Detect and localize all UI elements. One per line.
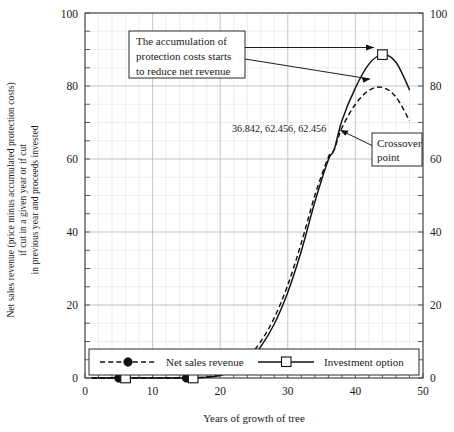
legend-marker-filled-circle bbox=[124, 358, 132, 366]
y-tick-20: 20 bbox=[67, 299, 79, 311]
x-axis-title: Years of growth of tree bbox=[203, 412, 305, 424]
legend-label-investment-option: Investment option bbox=[324, 356, 404, 368]
y-right-tick-40: 40 bbox=[430, 226, 442, 238]
y-tick-100: 100 bbox=[61, 8, 79, 20]
x-axis-tick-labels: 0 10 20 30 40 50 bbox=[82, 385, 429, 397]
chart-container: 0 10 20 30 40 50 0 20 40 60 80 100 0 20 … bbox=[0, 0, 454, 432]
y-axis-title: Net sales revenue (price minus accumulat… bbox=[5, 82, 40, 317]
x-tick-10: 10 bbox=[147, 385, 159, 397]
annotation-2-line-1: Crossover bbox=[377, 137, 422, 149]
annotation-1-line-3: to reduce net revenue bbox=[136, 65, 230, 77]
y-right-tick-80: 80 bbox=[430, 80, 442, 92]
y-axis-right-tick-labels: 0 20 40 60 80 100 bbox=[430, 8, 448, 385]
legend-marker-open-square bbox=[282, 357, 292, 367]
marker-peak bbox=[378, 50, 388, 60]
annotation-2-line-2: point bbox=[377, 151, 400, 163]
y-tick-60: 60 bbox=[67, 153, 79, 165]
y-tick-0: 0 bbox=[72, 372, 78, 384]
annotation-1-line-2: protection costs starts bbox=[136, 50, 231, 62]
data-point-label: 36.842, 62.456, 62.456 bbox=[232, 123, 326, 134]
annotation-1-line-1: The accumulation of bbox=[136, 35, 227, 47]
x-tick-30: 30 bbox=[282, 385, 294, 397]
chart-legend: Net sales revenue Investment option bbox=[89, 349, 419, 375]
y-right-tick-100: 100 bbox=[430, 8, 448, 20]
x-tick-20: 20 bbox=[214, 385, 226, 397]
y-tick-40: 40 bbox=[67, 226, 79, 238]
y-axis-tick-labels: 0 20 40 60 80 100 bbox=[61, 8, 79, 385]
y-right-tick-20: 20 bbox=[430, 299, 442, 311]
y-right-tick-60: 60 bbox=[430, 153, 442, 165]
x-tick-50: 50 bbox=[417, 385, 429, 397]
y-axis-title-line-2: if cut in a given year or if cut bbox=[17, 144, 28, 256]
x-tick-40: 40 bbox=[350, 385, 362, 397]
legend-label-net-sales-revenue: Net sales revenue bbox=[166, 356, 244, 368]
y-right-tick-0: 0 bbox=[430, 372, 436, 384]
y-axis-title-line-1: Net sales revenue (price minus accumulat… bbox=[5, 82, 17, 317]
annotation-accumulation: The accumulation of protection costs sta… bbox=[129, 31, 245, 78]
chart-svg: 0 10 20 30 40 50 0 20 40 60 80 100 0 20 … bbox=[0, 0, 454, 432]
y-tick-80: 80 bbox=[67, 80, 79, 92]
x-tick-0: 0 bbox=[82, 385, 88, 397]
y-axis-title-line-3: in previous year and proceeds invested bbox=[29, 125, 40, 274]
